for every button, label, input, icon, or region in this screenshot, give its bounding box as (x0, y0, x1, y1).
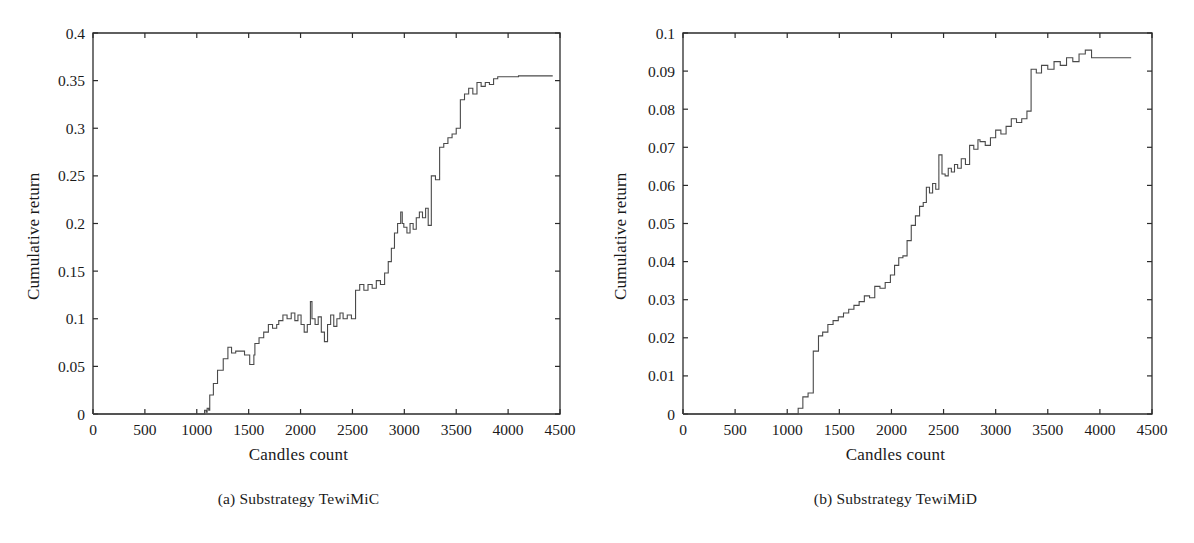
x-tick-label: 500 (133, 421, 157, 438)
panel-substrategy-tewimic: 05001000150020002500300035004000450000.0… (0, 0, 597, 543)
axis-frame (93, 33, 560, 414)
x-tick-label: 3500 (441, 421, 472, 438)
y-tick-label: 0.05 (58, 358, 85, 375)
y-tick-label: 0.07 (648, 139, 675, 156)
y-tick-label: 0 (77, 406, 85, 423)
y-tick-label: 0.01 (648, 367, 675, 384)
y-tick-label: 0.2 (66, 215, 85, 232)
y-tick-label: 0.15 (58, 263, 85, 280)
y-tick-label: 0.05 (648, 215, 675, 232)
x-tick-label: 1000 (181, 421, 212, 438)
x-tick-label: 4500 (1137, 421, 1168, 438)
x-tick-label: 2500 (337, 421, 368, 438)
x-tick-label: 3000 (389, 421, 420, 438)
axis-frame (683, 33, 1152, 414)
panel-caption-b: (b) Substrategy TewiMiD (597, 490, 1194, 508)
y-tick-label: 0.09 (648, 63, 675, 80)
y-tick-label: 0.4 (66, 25, 86, 42)
x-tick-label: 0 (89, 421, 97, 438)
y-tick-label: 0.06 (648, 177, 675, 194)
x-tick-label: 2000 (285, 421, 316, 438)
x-axis-label-b: Candles count (597, 445, 1194, 465)
x-tick-label: 3500 (1032, 421, 1063, 438)
y-tick-label: 0.35 (58, 72, 85, 89)
x-tick-label: 3000 (980, 421, 1011, 438)
y-tick-label: 0.1 (656, 25, 675, 42)
data-series-line (93, 76, 553, 414)
data-series-line (683, 50, 1131, 414)
y-tick-label: 0 (667, 406, 675, 423)
plot-a: 05001000150020002500300035004000450000.0… (0, 0, 597, 440)
panel-substrategy-tewimid: 05001000150020002500300035004000450000.0… (597, 0, 1194, 543)
x-tick-label: 4000 (1084, 421, 1115, 438)
y-tick-label: 0.08 (648, 101, 675, 118)
x-tick-label: 4000 (493, 421, 524, 438)
x-tick-label: 500 (723, 421, 747, 438)
x-tick-label: 4500 (545, 421, 576, 438)
x-tick-label: 2500 (928, 421, 959, 438)
y-tick-label: 0.25 (58, 167, 85, 184)
plot-b: 05001000150020002500300035004000450000.0… (597, 0, 1194, 440)
y-tick-label: 0.04 (648, 253, 675, 270)
x-tick-label: 1500 (824, 421, 855, 438)
y-tick-label: 0.3 (66, 120, 86, 137)
plot-b-svg: 05001000150020002500300035004000450000.0… (597, 0, 1194, 440)
x-tick-label: 2000 (876, 421, 907, 438)
figure-container: 05001000150020002500300035004000450000.0… (0, 0, 1194, 543)
plot-a-svg: 05001000150020002500300035004000450000.0… (0, 0, 597, 440)
x-tick-label: 1000 (772, 421, 803, 438)
y-tick-label: 0.02 (648, 329, 675, 346)
y-tick-label: 0.1 (66, 310, 85, 327)
y-axis-label-a: Cumulative return (24, 172, 44, 300)
x-tick-label: 1500 (233, 421, 264, 438)
y-axis-label-b: Cumulative return (611, 172, 631, 300)
x-tick-label: 0 (679, 421, 687, 438)
panel-caption-a: (a) Substrategy TewiMiC (0, 490, 597, 508)
x-axis-label-a: Candles count (0, 445, 597, 465)
y-tick-label: 0.03 (648, 291, 675, 308)
